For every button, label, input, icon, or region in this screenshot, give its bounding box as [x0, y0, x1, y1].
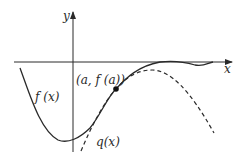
curve-f-label: f (x) [34, 90, 60, 104]
x-axis-label: x [224, 62, 231, 76]
curve-q-label: q(x) [96, 135, 120, 149]
diagram-canvas: y x (a, f (a)) f (x) q(x) [0, 0, 244, 159]
y-axis-label: y [62, 9, 70, 23]
point-label: (a, f (a)) [76, 73, 125, 87]
tangent-point [113, 86, 119, 92]
